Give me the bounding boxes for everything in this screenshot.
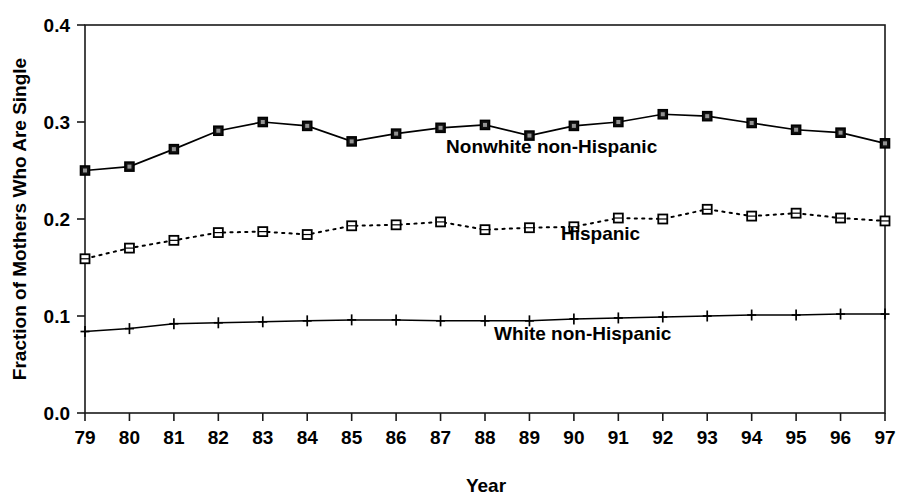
data-point-marker-inner: [83, 169, 87, 173]
x-tick-label: 93: [697, 427, 718, 448]
x-tick-label: 80: [119, 427, 140, 448]
y-tick-label: 0.2: [44, 209, 70, 230]
data-point-marker-inner: [750, 121, 754, 125]
x-tick-label: 79: [74, 427, 95, 448]
x-tick-label: 94: [741, 427, 763, 448]
data-point-marker-inner: [261, 120, 265, 124]
line-chart: 0.00.10.20.30.4 798081828384858687888990…: [0, 0, 912, 500]
x-tick-label: 84: [297, 427, 319, 448]
x-tick-label: 86: [386, 427, 407, 448]
chart-background: [0, 0, 912, 500]
y-axis-title: Fraction of Mothers Who Are Single: [9, 58, 30, 380]
x-tick-label: 87: [430, 427, 451, 448]
data-point-marker-inner: [839, 131, 843, 135]
data-point-marker-inner: [705, 114, 709, 118]
y-tick-label: 0.1: [44, 306, 71, 327]
data-point-marker-inner: [616, 120, 620, 124]
data-point-marker-inner: [572, 124, 576, 128]
data-point-marker-inner: [127, 165, 131, 169]
x-tick-label: 97: [874, 427, 895, 448]
x-tick-label: 85: [341, 427, 363, 448]
data-point-marker-inner: [305, 124, 309, 128]
data-point-marker-inner: [483, 123, 487, 127]
data-point-marker-inner: [172, 147, 176, 151]
x-tick-label: 83: [252, 427, 273, 448]
data-point-marker-inner: [883, 141, 887, 145]
x-tick-label: 90: [563, 427, 584, 448]
y-tick-label: 0.3: [44, 112, 70, 133]
y-tick-label: 0.4: [44, 15, 71, 36]
x-tick-label: 91: [608, 427, 630, 448]
x-tick-label: 81: [163, 427, 185, 448]
x-axis-title: Year: [466, 475, 507, 496]
data-point-marker-inner: [661, 112, 665, 116]
data-point-marker-inner: [350, 139, 354, 143]
chart-container: 0.00.10.20.30.4 798081828384858687888990…: [0, 0, 912, 500]
x-tick-label: 92: [652, 427, 673, 448]
x-tick-label: 96: [830, 427, 851, 448]
x-tick-label: 95: [786, 427, 808, 448]
data-point-marker-inner: [794, 128, 798, 132]
data-point-marker-inner: [439, 126, 443, 130]
data-point-marker-inner: [394, 132, 398, 136]
series-label-nonwhite-non-hispanic: Nonwhite non-Hispanic: [446, 136, 658, 157]
data-point-marker-inner: [216, 129, 220, 133]
x-tick-label: 82: [208, 427, 229, 448]
series-label-white-non-hispanic: White non-Hispanic: [494, 323, 672, 344]
y-tick-label: 0.0: [44, 403, 70, 424]
series-label-hispanic: Hispanic: [561, 223, 641, 244]
x-tick-label: 89: [519, 427, 540, 448]
x-tick-label: 88: [474, 427, 495, 448]
